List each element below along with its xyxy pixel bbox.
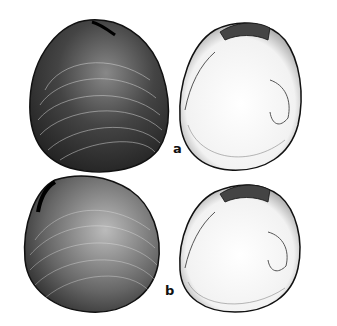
shell-a-interior — [180, 23, 301, 170]
shell-a-exterior — [30, 20, 169, 172]
figure-label-a: a — [173, 141, 182, 156]
figure-label-b: b — [165, 283, 174, 298]
shell-b-exterior — [25, 176, 160, 312]
shell-illustration — [0, 0, 337, 326]
shell-b-interior — [180, 185, 300, 312]
